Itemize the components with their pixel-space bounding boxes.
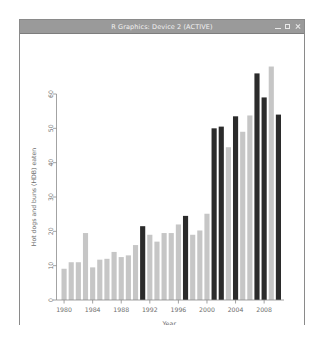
bar — [219, 127, 224, 300]
x-axis-tick-label: 1980 — [56, 306, 72, 313]
x-axis-tick-label: 1992 — [142, 306, 158, 313]
window-titlebar[interactable]: R Graphics: Device 2 (ACTIVE) — [20, 20, 304, 34]
y-axis-title: Hot dogs and buns (HDB) eaten — [30, 148, 38, 247]
bar — [197, 230, 202, 300]
bar — [62, 269, 67, 300]
bar — [104, 259, 109, 300]
bar — [212, 128, 217, 300]
bar — [262, 97, 267, 300]
bar — [169, 233, 174, 300]
x-axis-title: Year — [161, 320, 176, 325]
bar — [162, 233, 167, 300]
x-axis-tick-label: 1984 — [85, 306, 101, 313]
bar — [126, 255, 131, 300]
y-axis-tick-label: 10 — [47, 262, 54, 270]
bar — [233, 116, 238, 300]
barplot: 0102030405060Hot dogs and buns (HDB) eat… — [20, 34, 304, 325]
x-axis-tick-label: 1988 — [113, 306, 129, 313]
x-axis-tick-label: 2004 — [228, 306, 244, 313]
bar — [204, 214, 209, 300]
bar — [76, 262, 81, 300]
bar — [176, 224, 181, 300]
bar — [254, 73, 259, 300]
bar — [83, 233, 88, 300]
window-title: R Graphics: Device 2 (ACTIVE) — [111, 23, 212, 31]
bar — [240, 132, 245, 300]
x-axis-tick-label: 2000 — [199, 306, 215, 313]
bar — [97, 260, 102, 300]
bar — [90, 267, 95, 300]
bar — [154, 242, 159, 300]
bar — [69, 262, 74, 300]
maximize-icon[interactable] — [285, 24, 291, 30]
minimize-icon[interactable] — [275, 24, 281, 30]
bar — [140, 226, 145, 300]
y-axis-tick-label: 40 — [47, 159, 54, 167]
y-axis-tick-label: 20 — [47, 227, 54, 235]
x-axis-tick-label: 2008 — [256, 306, 272, 313]
y-axis-tick-label: 30 — [47, 193, 54, 201]
close-icon[interactable] — [295, 24, 301, 30]
x-axis-tick-label: 1996 — [171, 306, 187, 313]
bar — [269, 67, 274, 300]
bar — [276, 115, 281, 300]
y-axis-tick-label: 60 — [47, 90, 54, 98]
bar — [226, 147, 231, 300]
r-graphics-window: R Graphics: Device 2 (ACTIVE) 0102030405… — [19, 19, 305, 325]
y-axis-tick-label: 0 — [47, 298, 54, 302]
bar — [247, 115, 252, 300]
bar — [119, 257, 124, 300]
plot-canvas: 0102030405060Hot dogs and buns (HDB) eat… — [20, 34, 304, 325]
bar — [147, 235, 152, 300]
bar — [133, 245, 138, 300]
bar — [190, 235, 195, 300]
bar — [112, 252, 117, 300]
bar — [183, 216, 188, 300]
window-controls — [275, 20, 301, 33]
y-axis-tick-label: 50 — [47, 124, 54, 132]
